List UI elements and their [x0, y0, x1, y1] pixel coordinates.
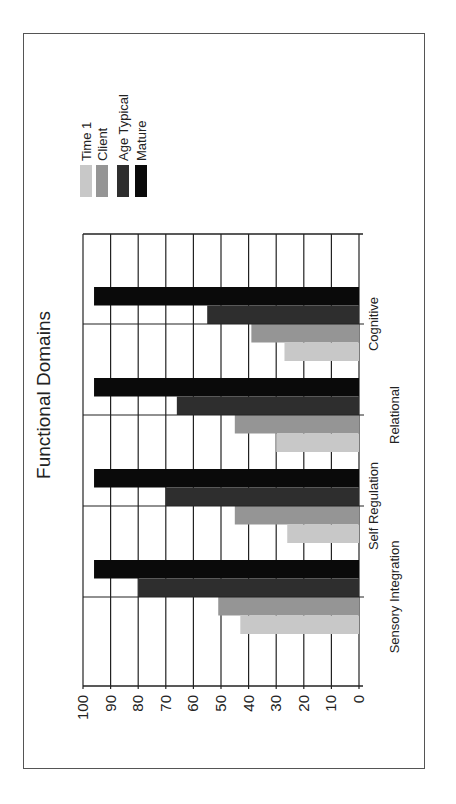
value-tick-label: 60	[184, 695, 201, 712]
bar-time-1	[240, 616, 359, 635]
category-label: Self Regulation	[366, 462, 381, 550]
bar-mature	[94, 469, 359, 488]
bar-age-typical	[207, 306, 359, 325]
legend-swatch	[117, 165, 129, 197]
legend-label: Mature	[134, 121, 149, 161]
legend-swatch	[96, 165, 108, 197]
bars	[94, 287, 359, 634]
value-tick-label: 10	[322, 695, 339, 712]
value-tick-label: 90	[102, 695, 119, 712]
bar-client	[235, 506, 359, 525]
bar-mature	[94, 378, 359, 397]
bar-age-typical	[166, 488, 359, 507]
legend-label: Time 1	[79, 122, 94, 161]
value-tick-label: 20	[295, 695, 312, 712]
category-label: Sensory Integration	[387, 541, 402, 654]
bar-time-1	[276, 434, 359, 453]
bar-age-typical	[138, 579, 359, 598]
value-tick-label: 100	[74, 695, 91, 720]
bar-age-typical	[177, 397, 359, 416]
bar-mature	[94, 287, 359, 306]
value-tick-label: 70	[157, 695, 174, 712]
category-axis: Sensory IntegrationSelf RegulationRelati…	[366, 297, 402, 653]
bar-client	[218, 597, 359, 616]
legend-swatch	[135, 165, 147, 197]
legend-swatch	[80, 165, 92, 197]
legend-label: Age Typical	[116, 94, 131, 161]
chart: 0102030405060708090100 Sensory Integrati…	[0, 0, 456, 804]
category-separators	[83, 324, 364, 597]
value-tick-label: 0	[350, 695, 367, 703]
category-label: Relational	[387, 386, 402, 444]
bar-time-1	[287, 525, 359, 544]
value-tick-label: 40	[240, 695, 257, 712]
value-tick-label: 30	[267, 695, 284, 712]
bar-mature	[94, 560, 359, 579]
bar-time-1	[284, 343, 359, 362]
bar-client	[235, 415, 359, 434]
legend: Time 1ClientAge TypicalMature	[79, 94, 149, 197]
chart-title: Functional Domains	[33, 311, 54, 479]
value-tick-label: 50	[212, 695, 229, 712]
category-label: Cognitive	[366, 297, 381, 351]
legend-label: Client	[95, 127, 110, 161]
bar-client	[251, 324, 359, 343]
value-axis: 0102030405060708090100	[74, 686, 367, 720]
value-tick-label: 80	[129, 695, 146, 712]
